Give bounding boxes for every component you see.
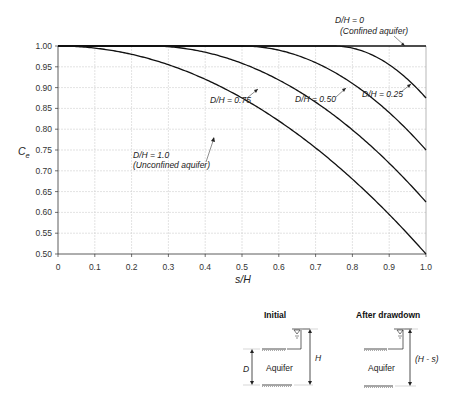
y-tick-label: 0.65	[35, 187, 52, 197]
y-tick-label: 0.60	[35, 207, 52, 217]
d-label: D	[243, 364, 249, 374]
label-dh075: D/H = 0.75	[210, 95, 251, 105]
x-tick-label: 0.8	[346, 262, 358, 272]
label-dh0-sub: (Confined aquifer)	[340, 26, 408, 36]
aquifer-label: Aquifer	[266, 363, 293, 373]
x-tick-label: 0.9	[383, 262, 395, 272]
axes: 1.000.950.900.850.800.750.700.650.600.55…	[35, 41, 432, 272]
y-axis-label: Ce	[18, 145, 30, 160]
water-table-icon	[397, 330, 403, 334]
y-tick-label: 0.80	[35, 124, 52, 134]
label-dh1-sub: (Unconfined aquifer)	[133, 160, 210, 170]
water-table-icon	[294, 330, 300, 334]
diagram-after-drawdown: After drawdown (H - s) Aquifer	[356, 310, 439, 388]
x-tick-label: 0	[56, 262, 61, 272]
label-dh1: D/H = 1.0	[133, 150, 169, 160]
arrow-head-icon	[211, 137, 215, 142]
x-tick-label: 0.3	[162, 262, 174, 272]
y-tick-label: 0.50	[35, 249, 52, 259]
y-tick-label: 0.55	[35, 228, 52, 238]
y-tick-label: 0.85	[35, 103, 52, 113]
x-tick-label: 1.0	[420, 262, 432, 272]
y-tick-label: 1.00	[35, 41, 52, 51]
x-tick-label: 0.1	[89, 262, 101, 272]
y-tick-label: 0.75	[35, 145, 52, 155]
h-minus-s-label: (H - s)	[415, 354, 439, 364]
x-axis-label: s/H	[235, 273, 251, 285]
label-dh025: D/H = 0.25	[362, 89, 403, 99]
x-tick-label: 0.6	[273, 262, 285, 272]
x-tick-label: 0.5	[236, 262, 248, 272]
chart-canvas: 1.000.950.900.850.800.750.700.650.600.55…	[0, 0, 453, 396]
x-tick-label: 0.7	[310, 262, 322, 272]
grid-lines	[58, 46, 426, 254]
x-tick-label: 0.2	[126, 262, 138, 272]
diagram-initial-title: Initial	[264, 310, 286, 320]
aquifer-label: Aquifer	[368, 363, 395, 373]
arrow-head-icon	[254, 89, 258, 93]
h-label: H	[315, 353, 322, 363]
diagram-after-title: After drawdown	[356, 310, 420, 320]
label-dh0: D/H = 0	[335, 15, 364, 25]
label-dh050: D/H = 0.50	[295, 94, 336, 104]
y-tick-label: 0.90	[35, 83, 52, 93]
diagram-initial: Initial D H Aquifer	[243, 310, 322, 387]
y-tick-label: 0.70	[35, 166, 52, 176]
x-tick-label: 0.4	[199, 262, 211, 272]
y-tick-label: 0.95	[35, 62, 52, 72]
